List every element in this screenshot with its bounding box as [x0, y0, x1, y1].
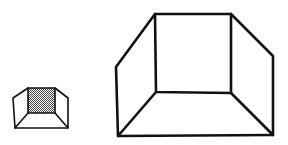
- large-box-bottom-edge: [118, 135, 273, 136]
- small-box-left-wall: [13, 88, 28, 128]
- large-box-left-wall: [116, 14, 156, 136]
- large-box-right-wall: [231, 14, 273, 135]
- small-box-right-wall: [55, 88, 68, 128]
- small-box: [13, 88, 68, 128]
- large-box-back-face: [155, 14, 231, 93]
- large-box: [116, 14, 273, 136]
- figure-canvas: [0, 0, 288, 145]
- small-box-back-face: [28, 88, 55, 113]
